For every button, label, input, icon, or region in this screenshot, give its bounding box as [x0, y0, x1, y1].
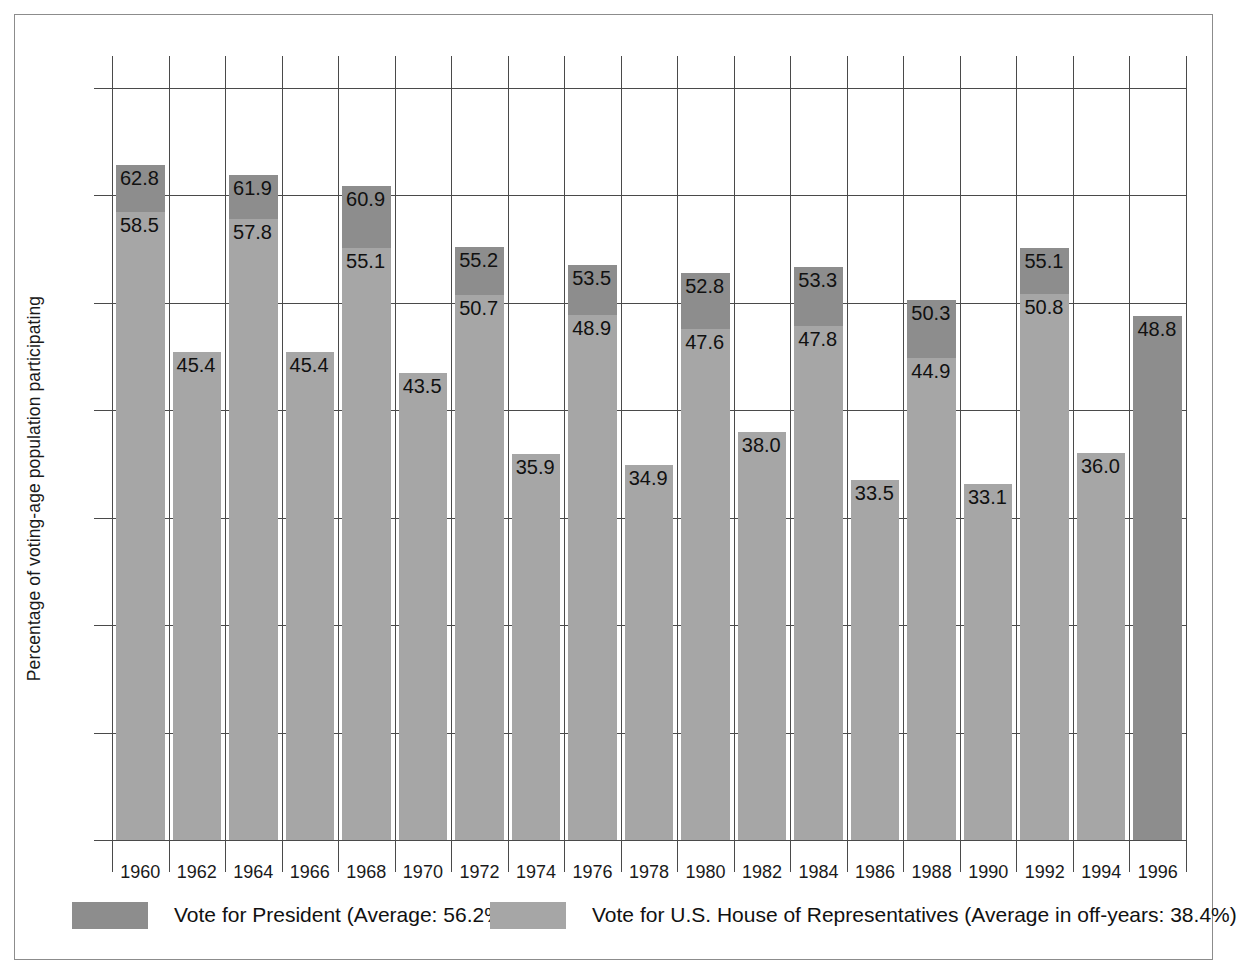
bar-segment-president: 53.5	[568, 265, 617, 314]
bar-slot: 33.1	[960, 88, 1017, 840]
bar-segment-house: 48.9	[568, 315, 617, 840]
x-tick-label-1966: 1966	[282, 862, 339, 883]
x-tick-label-1986: 1986	[847, 862, 904, 883]
x-tick-label-1972: 1972	[451, 862, 508, 883]
bar-segment-house: 55.1	[342, 248, 391, 840]
x-tick-label-1970: 1970	[395, 862, 452, 883]
bar-value-house: 47.8	[798, 329, 837, 349]
x-tick-label-1962: 1962	[169, 862, 226, 883]
bar-1990[interactable]: 33.1	[964, 484, 1013, 840]
bar-segment-house: 35.9	[512, 454, 561, 840]
bar-segment-house: 34.9	[625, 465, 674, 840]
bar-1994[interactable]: 36.0	[1077, 453, 1126, 840]
x-tick-label-1980: 1980	[677, 862, 734, 883]
bar-value-house: 43.5	[403, 376, 442, 396]
x-tick-label-1994: 1994	[1073, 862, 1130, 883]
bar-segment-house: 33.5	[851, 480, 900, 840]
bar-segment-house: 50.7	[455, 295, 504, 840]
bar-segment-president: 50.3	[907, 300, 956, 358]
bar-slot: 34.9	[621, 88, 678, 840]
x-tick-label-1996: 1996	[1129, 862, 1186, 883]
bar-segment-president: 53.3	[794, 267, 843, 326]
bar-segment-house: 44.9	[907, 358, 956, 840]
bar-1982[interactable]: 38.0	[738, 432, 787, 840]
bar-value-president: 48.8	[1137, 319, 1176, 339]
bar-slot: 38.0	[734, 88, 791, 840]
bar-1972[interactable]: 55.250.7	[455, 247, 504, 840]
bar-segment-house: 47.6	[681, 329, 730, 840]
legend-label-house: Vote for U.S. House of Representatives (…	[592, 903, 1237, 927]
bar-slot: 33.5	[847, 88, 904, 840]
bar-slot: 53.548.9	[564, 88, 621, 840]
bar-segment-house: 58.5	[116, 212, 165, 840]
bar-slot: 52.847.6	[677, 88, 734, 840]
bar-value-president: 61.9	[233, 178, 272, 198]
bar-1988[interactable]: 50.344.9	[907, 300, 956, 840]
x-tick-label-1964: 1964	[225, 862, 282, 883]
x-tick-label-1960: 1960	[112, 862, 169, 883]
bar-1966[interactable]: 45.4	[286, 352, 335, 840]
bar-value-president: 50.3	[911, 303, 950, 323]
bar-slot: 35.9	[508, 88, 565, 840]
bar-1976[interactable]: 53.548.9	[568, 265, 617, 840]
bar-value-president: 55.1	[1024, 251, 1063, 271]
chart-legend: Vote for President (Average: 56.2%) Vote…	[60, 898, 1180, 938]
bar-value-house: 47.6	[685, 332, 724, 352]
bar-value-president: 52.8	[685, 276, 724, 296]
plot-area: 010203040506070 62.858.545.461.957.845.4…	[112, 88, 1186, 840]
bar-segment-house: 57.8	[229, 219, 278, 840]
bar-1970[interactable]: 43.5	[399, 373, 448, 840]
bar-segment-house: 45.4	[173, 352, 222, 840]
bar-value-house: 57.8	[233, 222, 272, 242]
bar-slot: 45.4	[169, 88, 226, 840]
bar-value-president: 55.2	[459, 250, 498, 270]
bar-1996[interactable]: 48.8	[1133, 316, 1182, 840]
bar-1962[interactable]: 45.4	[173, 352, 222, 840]
bar-1984[interactable]: 53.347.8	[794, 267, 843, 840]
bar-value-house: 35.9	[516, 457, 555, 477]
x-tick-label-1974: 1974	[508, 862, 565, 883]
bar-segment-house: 38.0	[738, 432, 787, 840]
legend-swatch-house	[490, 902, 566, 929]
bar-slot: 61.957.8	[225, 88, 282, 840]
bar-slot: 55.250.7	[451, 88, 508, 840]
bar-segment-president: 62.8	[116, 165, 165, 211]
bar-1978[interactable]: 34.9	[625, 465, 674, 840]
bar-segment-president: 55.1	[1020, 248, 1069, 294]
x-tick-label-1984: 1984	[790, 862, 847, 883]
bar-1960[interactable]: 62.858.5	[116, 165, 165, 840]
bar-1992[interactable]: 55.150.8	[1020, 248, 1069, 840]
bar-value-house: 34.9	[629, 468, 668, 488]
bar-slot: 62.858.5	[112, 88, 169, 840]
bar-value-house: 44.9	[911, 361, 950, 381]
bar-slot: 53.347.8	[790, 88, 847, 840]
bar-1974[interactable]: 35.9	[512, 454, 561, 840]
bar-segment-president: 48.8	[1133, 316, 1182, 840]
bar-1980[interactable]: 52.847.6	[681, 273, 730, 840]
bar-segment-house: 36.0	[1077, 453, 1126, 840]
bar-slot: 36.0	[1073, 88, 1130, 840]
bar-segment-house: 43.5	[399, 373, 448, 840]
x-tick-label-1978: 1978	[621, 862, 678, 883]
y-axis-title-label: Percentage of voting-age population part…	[25, 295, 46, 680]
x-axis-labels: 1960196219641966196819701972197419761978…	[112, 862, 1186, 888]
legend-swatch-president	[72, 902, 148, 929]
legend-item-house: Vote for U.S. House of Representatives (…	[490, 898, 1237, 932]
bar-value-house: 38.0	[742, 435, 781, 455]
x-tick-label-1992: 1992	[1016, 862, 1073, 883]
bar-value-house: 48.9	[572, 318, 611, 338]
bar-value-president: 60.9	[346, 189, 385, 209]
bar-slot: 45.4	[282, 88, 339, 840]
bar-slot: 55.150.8	[1016, 88, 1073, 840]
bar-value-president: 53.5	[572, 268, 611, 288]
bar-value-house: 50.8	[1024, 297, 1063, 317]
legend-item-president: Vote for President (Average: 56.2%)	[72, 898, 510, 932]
bar-1986[interactable]: 33.5	[851, 480, 900, 840]
x-tick-label-1968: 1968	[338, 862, 395, 883]
bar-value-house: 33.1	[968, 487, 1007, 507]
x-tick-label-1982: 1982	[734, 862, 791, 883]
bar-1968[interactable]: 60.955.1	[342, 186, 391, 840]
bar-value-house: 58.5	[120, 215, 159, 235]
bar-1964[interactable]: 61.957.8	[229, 175, 278, 840]
